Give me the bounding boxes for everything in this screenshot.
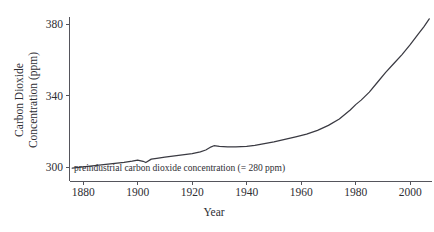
x-tick-label: 1980 — [344, 186, 367, 198]
chart-canvas: 300340380 Carbon Dioxide Concentration (… — [0, 0, 434, 232]
x-tick-label: 1960 — [290, 186, 313, 198]
data-series-group — [72, 19, 429, 168]
x-tick-label: 2000 — [399, 186, 422, 198]
preindustrial-annotation: preindustrial carbon dioxide concentrati… — [74, 163, 285, 174]
x-tick-label: 1880 — [72, 186, 95, 198]
x-axis-title: Year — [203, 206, 224, 218]
y-axis-group: 300340380 Carbon Dioxide Concentration (… — [13, 17, 70, 181]
y-tick-label: 300 — [46, 161, 64, 173]
y-axis-title-line2: Concentration (ppm) — [27, 52, 40, 148]
co2-chart-figure: 300340380 Carbon Dioxide Concentration (… — [0, 0, 434, 232]
y-tick-label: 340 — [46, 90, 64, 102]
co2-trend-line — [72, 19, 429, 168]
y-tick-label: 380 — [46, 18, 64, 30]
y-tick-labels: 300340380 — [46, 18, 64, 173]
y-axis-title-line1: Carbon Dioxide — [13, 63, 25, 137]
x-tick-label: 1920 — [181, 186, 204, 198]
x-axis-group: 1880190019201940196019802000 Year — [70, 182, 433, 219]
x-tick-label: 1900 — [126, 186, 149, 198]
x-tick-label: 1940 — [235, 186, 258, 198]
x-tick-labels: 1880190019201940196019802000 — [72, 186, 422, 198]
